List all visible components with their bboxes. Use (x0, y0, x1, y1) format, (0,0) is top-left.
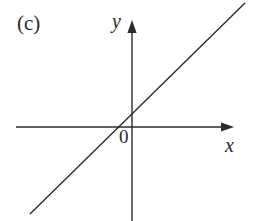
y-axis-arrowhead (127, 20, 136, 33)
x-axis-label: x (225, 135, 234, 155)
figure-panel: (c) y x 0 (0, 0, 256, 221)
y-axis-label: y (112, 11, 121, 31)
panel-label: (c) (17, 13, 40, 34)
origin-label: 0 (119, 127, 129, 146)
line-plot (30, 3, 245, 214)
x-axis-arrowhead (221, 122, 234, 131)
